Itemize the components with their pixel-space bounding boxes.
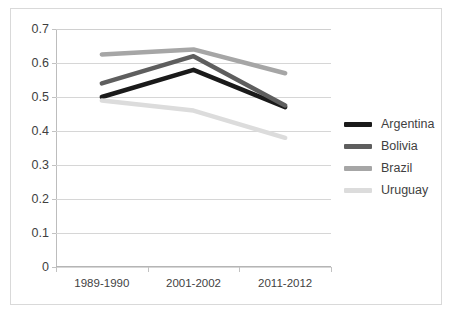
legend-swatch-icon — [344, 166, 372, 171]
x-axis-tick-label: 2001-2002 — [166, 277, 221, 289]
x-axis-tick — [56, 267, 57, 272]
gridline — [56, 267, 331, 268]
legend-swatch-icon — [344, 122, 372, 127]
legend-item-bolivia[interactable]: Bolivia — [344, 135, 440, 157]
x-axis-tick-label: 2011-2012 — [258, 277, 312, 289]
y-axis-tick-label: 0 — [42, 260, 49, 274]
y-axis-tick-label: 0.2 — [32, 192, 49, 206]
series-lines — [56, 29, 331, 267]
legend-item-label: Argentina — [381, 117, 435, 131]
y-axis-tick-label: 0.1 — [32, 226, 49, 240]
plot-area: 00.10.20.30.40.50.60.7 1989-19902001-200… — [56, 29, 331, 267]
chart-figure: 00.10.20.30.40.50.60.7 1989-19902001-200… — [10, 8, 442, 305]
legend-item-argentina[interactable]: Argentina — [344, 113, 440, 135]
x-axis-tick — [331, 267, 332, 272]
y-axis-tick-label: 0.5 — [32, 90, 49, 104]
legend-swatch-icon — [344, 188, 372, 193]
y-axis-tick-label: 0.3 — [32, 158, 49, 172]
y-axis-tick-label: 0.7 — [32, 22, 49, 36]
series-line-uruguay — [102, 100, 285, 137]
chart-legend: ArgentinaBoliviaBrazilUruguay — [344, 113, 440, 201]
x-axis-tick — [239, 267, 240, 272]
legend-item-label: Bolivia — [381, 139, 418, 153]
x-axis-tick — [148, 267, 149, 272]
legend-item-label: Brazil — [381, 161, 412, 175]
legend-swatch-icon — [344, 144, 372, 149]
y-axis-tick-label: 0.6 — [32, 56, 49, 70]
legend-item-label: Uruguay — [381, 183, 428, 197]
legend-item-brazil[interactable]: Brazil — [344, 157, 440, 179]
x-axis-tick-label: 1989-1990 — [74, 277, 129, 289]
y-axis-tick-label: 0.4 — [32, 124, 49, 138]
legend-item-uruguay[interactable]: Uruguay — [344, 179, 440, 201]
